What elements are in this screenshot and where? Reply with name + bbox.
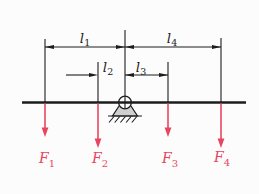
lever-diagram: l1 l4 l2 l3	[0, 0, 259, 194]
arrowhead-l2	[89, 73, 98, 77]
dim-label-l1: l1	[80, 30, 90, 48]
force-arrow-f3: F3	[161, 104, 178, 169]
force-label-f3: F3	[161, 150, 178, 169]
force-arrowhead-f2	[95, 139, 102, 149]
force-label-f2: F2	[91, 150, 108, 169]
force-arrow-f2: F2	[91, 104, 108, 169]
force-arrowhead-f3	[165, 128, 172, 138]
dimension-l2: l2	[66, 59, 113, 77]
extension-lines	[45, 30, 221, 102]
dimension-l4: l4	[125, 30, 221, 49]
arrowhead-right-l4	[212, 45, 221, 49]
force-arrow-f1: F1	[38, 104, 55, 169]
force-arrowhead-f4	[218, 139, 225, 149]
arrowhead-left-l1	[45, 45, 54, 49]
arrowhead-right-l1	[116, 45, 125, 49]
lever-diagram-svg: l1 l4 l2 l3	[0, 0, 259, 194]
force-arrowhead-f1	[42, 128, 49, 138]
force-label-f1: F1	[38, 150, 55, 169]
dim-label-l2: l2	[103, 59, 113, 77]
dimension-l3: l3	[125, 59, 168, 77]
dimension-l1: l1	[45, 30, 125, 49]
support-hatching	[109, 117, 137, 123]
arrowhead-left-l4	[125, 45, 134, 49]
arrowhead-left-l3	[125, 73, 134, 77]
force-label-f4: F4	[213, 149, 230, 168]
dim-label-l4: l4	[167, 30, 177, 48]
force-arrow-f4: F4	[213, 104, 230, 168]
dim-label-l3: l3	[136, 59, 146, 77]
arrowhead-right-l3	[159, 73, 168, 77]
